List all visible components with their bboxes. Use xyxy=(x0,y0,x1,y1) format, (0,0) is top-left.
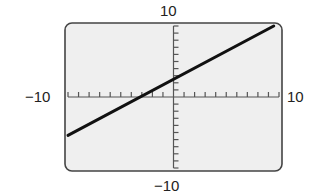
graph-screen xyxy=(0,0,319,196)
